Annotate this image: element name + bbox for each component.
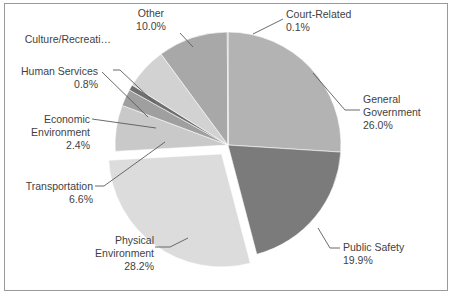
slice-label-physical-environment-name-2: Environment <box>30 247 154 260</box>
pie-slice-general-government <box>228 32 341 152</box>
slice-label-human-services: Human Services 0.8% <box>0 65 98 91</box>
slice-label-transportation-name: Transportation <box>0 180 93 193</box>
slice-label-economic-environment-name-2: Environment <box>0 126 90 139</box>
slice-label-human-services-name: Human Services <box>0 65 98 78</box>
slice-label-public-safety-name: Public Safety <box>343 241 404 254</box>
slice-label-economic-environment: Economic Environment 2.4% <box>0 113 90 152</box>
slice-label-other-name: Other <box>125 7 177 20</box>
slice-label-transportation: Transportation 6.6% <box>0 180 93 206</box>
slice-label-other-percent: 10.0% <box>125 20 177 33</box>
slice-label-culture-recreation: Culture/Recreati… <box>6 33 111 46</box>
slice-label-culture-recreation-name: Culture/Recreati… <box>6 33 111 46</box>
slice-label-economic-environment-name-1: Economic <box>0 113 90 126</box>
slice-label-other: Other 10.0% <box>125 7 177 33</box>
slice-label-court-related-name: Court-Related <box>286 8 351 21</box>
leader-line-court-related <box>253 19 283 34</box>
slice-label-transportation-percent: 6.6% <box>0 193 93 206</box>
slice-label-court-related-percent: 0.1% <box>286 21 351 34</box>
pie-chart-plot-area: Court-Related 0.1% General Government 26… <box>0 0 454 303</box>
slice-label-general-government-name-2: Government <box>363 106 421 119</box>
slice-label-physical-environment-name-1: Physical <box>30 234 154 247</box>
slice-label-economic-environment-percent: 2.4% <box>0 139 90 152</box>
slice-label-general-government: General Government 26.0% <box>363 93 421 132</box>
slice-label-physical-environment: Physical Environment 28.2% <box>30 234 154 273</box>
pie-slice-group <box>109 32 341 267</box>
slice-label-public-safety-percent: 19.9% <box>343 254 404 267</box>
leader-line-public-safety <box>318 228 340 248</box>
slice-label-human-services-percent: 0.8% <box>0 78 98 91</box>
slice-label-general-government-name-1: General <box>363 93 421 106</box>
slice-label-court-related: Court-Related 0.1% <box>286 8 351 34</box>
slice-label-general-government-percent: 26.0% <box>363 119 421 132</box>
slice-label-public-safety: Public Safety 19.9% <box>343 241 404 267</box>
slice-label-physical-environment-percent: 28.2% <box>30 260 154 273</box>
